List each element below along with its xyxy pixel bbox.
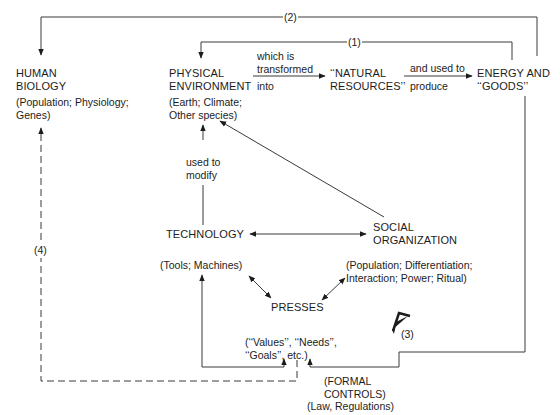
loop-2-label: (2) (283, 11, 298, 24)
loop-3-label: (3) (401, 328, 414, 341)
transform-label-bottom: into (257, 80, 274, 93)
presses-detail: (‘‘Values’’, ‘‘Needs’’, ‘‘Goals’’, etc.) (245, 336, 337, 362)
natural-resources-title: ‘‘NATURAL RESOURCES’’ (330, 67, 405, 93)
tools-presses-arrow (249, 276, 271, 298)
modify-label: used to modify (186, 156, 220, 182)
presses-title: PRESSES (271, 301, 324, 314)
physical-environment-title: PHYSICAL ENVIRONMENT (169, 67, 251, 93)
formal-controls-title: (FORMAL CONTROLS) (324, 375, 386, 401)
human-biology-title: HUMAN BIOLOGY (16, 67, 66, 93)
social-organization-detail: (Population; Differentiation; Interactio… (346, 259, 472, 285)
loop-1-label: (1) (347, 36, 362, 49)
energy-goods-title: ENERGY AND ‘‘GOODS’’ (477, 67, 550, 93)
physical-environment-detail: (Earth; Climate; Other species) (169, 96, 242, 122)
social-organization-title: SOCIAL ORGANIZATION (373, 221, 457, 247)
produce-label-bottom: produce (410, 80, 448, 93)
loop-4-label: (4) (34, 243, 47, 258)
technology-detail: (Tools; Machines) (160, 259, 242, 272)
human-biology-detail: (Population; Physiology; Genes) (16, 96, 129, 122)
formal-controls-detail: (Law, Regulations) (307, 400, 394, 413)
produce-label-top: and used to (410, 62, 465, 75)
social-to-env-line (220, 121, 384, 217)
technology-title: TECHNOLOGY (166, 228, 244, 241)
social-presses-arrow (322, 278, 345, 300)
transform-label-top: which is transformed (257, 50, 313, 76)
